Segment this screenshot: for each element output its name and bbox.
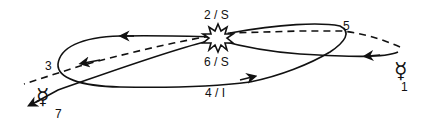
trajectory-segment-1-2	[218, 40, 398, 56]
label-point-1: 1	[401, 80, 408, 94]
starburst-icon	[203, 24, 233, 52]
label-point-5: 5	[343, 19, 350, 33]
label-point-4: 4 / I	[205, 86, 225, 100]
label-point-3: 3	[45, 59, 52, 73]
trajectory-segment-6-7	[36, 40, 212, 102]
trajectory-diagram: ☿ ☿ 2 / S 6 / S 4 / I 3 5 1 7	[0, 0, 436, 124]
label-point-7: 7	[55, 107, 62, 121]
label-point-2: 2 / S	[204, 8, 229, 22]
trajectory-arrow-4	[240, 77, 252, 80]
mercury-symbol-end: ☿	[36, 84, 50, 109]
trajectory-arrow-1	[368, 55, 380, 56]
label-point-6: 6 / S	[204, 55, 229, 69]
